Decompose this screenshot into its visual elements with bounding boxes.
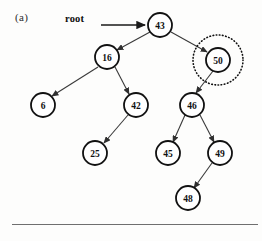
- node-label: 16: [102, 53, 112, 63]
- node-label: 48: [183, 194, 193, 204]
- figure-container: (a) root: [0, 0, 262, 241]
- tree-diagram-svg: 43 16 50 6 42 46: [0, 0, 262, 241]
- tree-node-50[interactable]: 50: [206, 48, 230, 72]
- edge-42-25: [104, 115, 128, 143]
- edge-43-16: [117, 32, 150, 50]
- tree-node-43[interactable]: 43: [148, 13, 172, 37]
- node-label: 6: [41, 101, 46, 111]
- node-label: 50: [213, 56, 223, 66]
- tree-node-46[interactable]: 46: [180, 93, 204, 117]
- horizontal-rule: [12, 224, 258, 225]
- node-label: 42: [131, 101, 141, 111]
- tree-node-6[interactable]: 6: [31, 93, 55, 117]
- node-label: 46: [187, 101, 197, 111]
- edge-16-42: [115, 67, 129, 94]
- tree-node-42[interactable]: 42: [124, 93, 148, 117]
- tree-node-16[interactable]: 16: [95, 45, 119, 69]
- node-label: 45: [163, 149, 173, 159]
- edge-49-48: [194, 163, 212, 188]
- edge-46-49: [200, 115, 214, 142]
- edge-50-46: [196, 71, 213, 93]
- node-label: 43: [155, 21, 165, 31]
- tree-node-25[interactable]: 25: [83, 141, 107, 165]
- tree-node-49[interactable]: 49: [208, 141, 232, 165]
- edge-16-6: [52, 67, 98, 96]
- tree-node-45[interactable]: 45: [156, 141, 180, 165]
- node-label: 49: [215, 149, 225, 159]
- edge-43-50: [171, 32, 207, 52]
- node-label: 25: [90, 149, 100, 159]
- edge-46-45: [173, 115, 185, 142]
- tree-node-48[interactable]: 48: [176, 186, 200, 210]
